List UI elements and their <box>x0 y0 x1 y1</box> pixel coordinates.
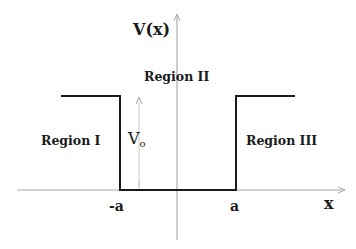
depth-label-main: V <box>128 129 140 148</box>
region-iii-label: Region III <box>246 135 317 148</box>
tick-plus-a: a <box>230 199 239 213</box>
region-i-label: Region I <box>41 135 100 148</box>
x-axis-label: x <box>324 196 334 212</box>
tick-minus-a: -a <box>109 199 124 213</box>
region-ii-label: Region II <box>144 71 209 84</box>
y-axis-label: V(x) <box>133 22 170 38</box>
diagram-canvas <box>0 0 356 249</box>
potential-well-diagram: V(x) x Region II Region I Region III Vo … <box>0 0 356 249</box>
depth-label: Vo <box>128 131 146 149</box>
depth-label-subscript: o <box>140 138 146 149</box>
